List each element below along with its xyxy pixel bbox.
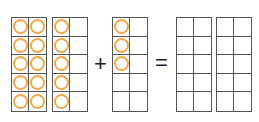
frame-cell: [113, 92, 130, 111]
frame-cell: [113, 37, 130, 56]
frame-cell: [53, 74, 70, 93]
frame-cell: [53, 37, 70, 56]
frame-cell: [177, 37, 194, 56]
frame-cell: [70, 18, 87, 37]
frame-cell: [194, 92, 211, 111]
frame-cell: [130, 55, 147, 74]
plus-sign: +: [94, 53, 107, 75]
circle-counter-icon: [30, 19, 45, 34]
ten-frame-result-b: [216, 17, 252, 112]
frame-cell: [194, 55, 211, 74]
circle-counter-icon: [114, 56, 129, 71]
circle-counter-icon: [54, 94, 69, 109]
frame-cell: [130, 37, 147, 56]
circle-counter-icon: [54, 56, 69, 71]
circle-counter-icon: [13, 19, 28, 34]
circle-counter-icon: [13, 75, 28, 90]
frame-cell: [12, 55, 29, 74]
frame-cell: [53, 18, 70, 37]
frame-cell: [29, 55, 46, 74]
frame-cell: [217, 55, 234, 74]
frame-cell: [177, 18, 194, 37]
circle-counter-icon: [114, 38, 129, 53]
frame-cell: [194, 37, 211, 56]
frame-cell: [29, 37, 46, 56]
frame-cell: [177, 92, 194, 111]
ten-frame-addend1-b: [52, 17, 88, 112]
circle-counter-icon: [30, 75, 45, 90]
frame-cell: [12, 37, 29, 56]
circle-counter-icon: [13, 94, 28, 109]
frame-cell: [234, 37, 251, 56]
circle-counter-icon: [13, 38, 28, 53]
frame-cell: [113, 74, 130, 93]
frame-cell: [217, 74, 234, 93]
frame-cell: [217, 92, 234, 111]
frame-cell: [29, 92, 46, 111]
frame-cell: [177, 55, 194, 74]
frame-cell: [234, 55, 251, 74]
frame-cell: [194, 74, 211, 93]
frame-cell: [234, 18, 251, 37]
ten-frame-result-a: [176, 17, 212, 112]
frame-cell: [130, 92, 147, 111]
circle-counter-icon: [13, 56, 28, 71]
circle-counter-icon: [54, 75, 69, 90]
circle-counter-icon: [30, 94, 45, 109]
frame-cell: [113, 18, 130, 37]
circle-counter-icon: [54, 38, 69, 53]
frame-cell: [53, 55, 70, 74]
frame-cell: [130, 18, 147, 37]
frame-cell: [70, 55, 87, 74]
frame-cell: [194, 18, 211, 37]
circle-counter-icon: [30, 38, 45, 53]
frame-cell: [29, 74, 46, 93]
frame-cell: [12, 18, 29, 37]
circle-counter-icon: [114, 19, 129, 34]
frame-cell: [70, 37, 87, 56]
frame-cell: [234, 92, 251, 111]
frame-cell: [217, 18, 234, 37]
frame-cell: [177, 74, 194, 93]
frame-cell: [234, 74, 251, 93]
frame-cell: [12, 92, 29, 111]
frame-cell: [12, 74, 29, 93]
frame-cell: [53, 92, 70, 111]
frame-cell: [70, 92, 87, 111]
frame-cell: [217, 37, 234, 56]
frame-cell: [113, 55, 130, 74]
ten-frame-addend1-a: [11, 17, 47, 112]
frame-cell: [70, 74, 87, 93]
ten-frame-addend2: [112, 17, 148, 112]
equals-sign: =: [155, 52, 168, 74]
circle-counter-icon: [30, 56, 45, 71]
frame-cell: [29, 18, 46, 37]
circle-counter-icon: [54, 19, 69, 34]
frame-cell: [130, 74, 147, 93]
